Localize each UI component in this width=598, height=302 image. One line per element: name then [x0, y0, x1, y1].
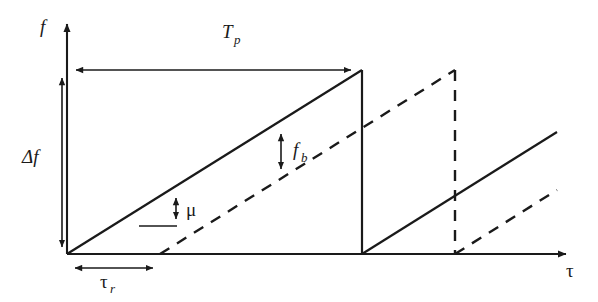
time-axis-label: τ — [566, 260, 574, 281]
sweep-period-label-base: T — [222, 21, 234, 42]
transmitted-ramp-1 — [67, 70, 362, 254]
round-trip-delay-label: τ r — [100, 271, 116, 296]
received-ramp-2 — [455, 190, 557, 254]
beat-frequency-label-subscript: b — [301, 150, 308, 165]
beat-frequency-label-base: f — [293, 139, 301, 160]
diagram-canvas: f τ T p Δf τ r f b μ — [0, 0, 598, 302]
beat-frequency-label: f b — [293, 139, 308, 165]
sweep-period-label-subscript: p — [233, 32, 241, 47]
frequency-axis-label: f — [40, 16, 48, 37]
chirp-rate-label: μ — [186, 199, 196, 220]
round-trip-delay-label-base: τ — [100, 271, 108, 292]
received-ramp-1 — [160, 70, 455, 254]
fmcw-sawtooth-diagram: f τ T p Δf τ r f b μ — [0, 0, 598, 302]
round-trip-delay-label-subscript: r — [110, 281, 116, 296]
transmitted-ramp-2 — [362, 132, 557, 254]
sweep-period-label: T p — [222, 21, 241, 47]
bandwidth-label: Δf — [21, 146, 41, 167]
